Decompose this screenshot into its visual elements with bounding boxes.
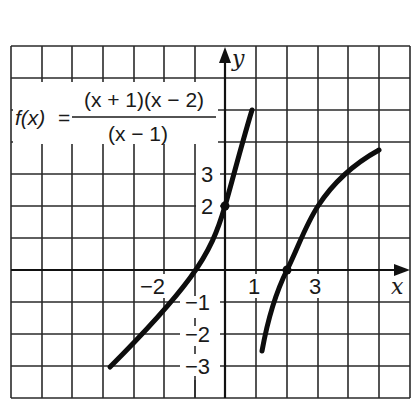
x-tick-label: 1	[248, 274, 260, 299]
x-tick-label: 3	[309, 274, 321, 299]
y-tick-label: 2	[201, 194, 213, 219]
x-intercept-point	[283, 266, 292, 275]
y-tick-label: −1	[185, 290, 210, 315]
y-intercept-point	[221, 202, 230, 211]
formula-numerator: (x + 1)(x − 2)	[84, 88, 204, 111]
formula-lhs: f(x)	[15, 106, 45, 129]
y-tick-label: −2	[185, 322, 210, 347]
coordinate-plane: y x −2 1 3 3 2 −1 −2 −3 f(x) = (x + 1)(x…	[0, 0, 418, 418]
right-branch-curve	[262, 150, 379, 351]
x-tick-label: −2	[140, 274, 165, 299]
y-axis-label: y	[231, 46, 245, 71]
graph-figure: y x −2 1 3 3 2 −1 −2 −3 f(x) = (x + 1)(x…	[0, 0, 418, 418]
y-tick-label: 3	[201, 162, 213, 187]
x-axis-label: x	[391, 274, 404, 299]
y-tick-label: −3	[185, 354, 210, 379]
formula-equals: =	[58, 106, 70, 129]
formula-denominator: (x − 1)	[108, 122, 168, 145]
